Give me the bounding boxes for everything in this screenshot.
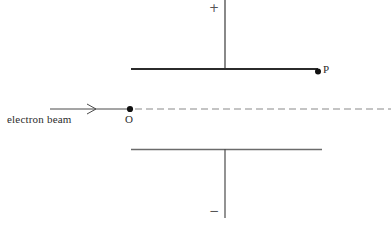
negative-terminal-label: − (209, 205, 219, 217)
electron-beam-caption: electron beam (7, 114, 72, 125)
point-p-label: P (323, 64, 329, 75)
point-o-dot (127, 106, 133, 112)
physics-diagram: + − P O electron beam (0, 0, 391, 229)
positive-terminal-label: + (209, 2, 219, 14)
point-p-dot (315, 69, 321, 75)
point-o-label: O (125, 114, 133, 125)
